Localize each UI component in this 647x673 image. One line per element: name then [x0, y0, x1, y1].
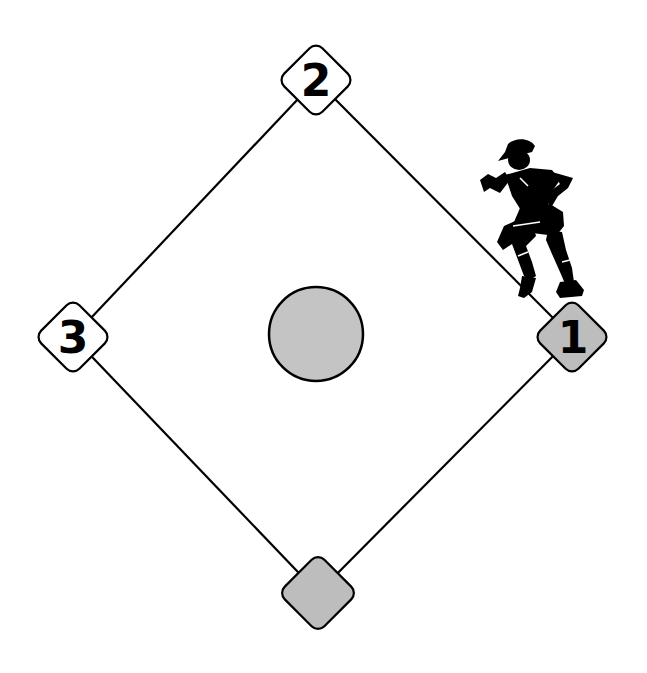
first-base-label: 1	[558, 312, 589, 363]
second-base-label: 2	[301, 55, 332, 106]
third-base-label: 3	[58, 312, 89, 363]
path-home-to-first	[318, 337, 572, 593]
runner-icon	[480, 139, 584, 298]
path-third-to-home	[73, 337, 318, 593]
pitchers-mound	[269, 287, 363, 381]
path-second-to-third	[73, 80, 316, 337]
baseball-diamond-diagram: 2 3 1	[0, 0, 647, 673]
